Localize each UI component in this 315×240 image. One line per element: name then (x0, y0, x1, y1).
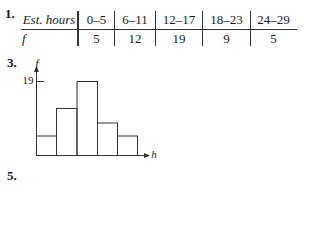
histogram-bar-12-17 (77, 82, 98, 156)
exercise-5-number: 5. (7, 168, 17, 183)
histogram-bar-0-5 (37, 136, 57, 156)
histogram-bar-24-29 (118, 136, 138, 156)
x-axis-label: h (150, 148, 158, 160)
histogram-bar-18-23 (98, 123, 118, 156)
histogram-bar-6-11 (57, 109, 78, 156)
y-axis-label: f (32, 57, 42, 72)
y-tick-label-19: 19 (21, 74, 35, 86)
